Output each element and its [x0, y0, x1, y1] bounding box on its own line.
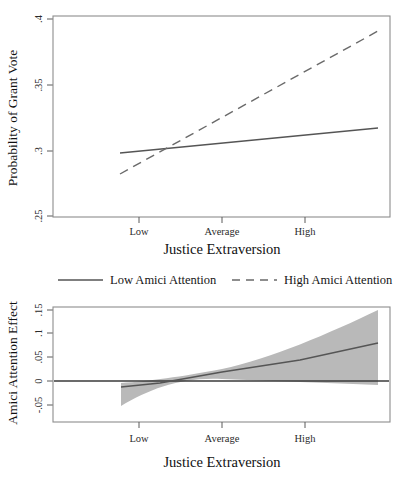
bottom-panel-y-axis-title: Amici Attention Effect: [5, 301, 20, 425]
y-tick-label: 0: [33, 378, 44, 383]
y-tick-label: .25: [33, 209, 44, 222]
top-panel-y-ticks: .4 .35 .3 .25: [33, 14, 53, 222]
bottom-panel-plot: Amici Attention Effect .15 .1 .05 0 -.05: [0, 295, 399, 486]
legend-entry-low-amici-attention: Low Amici Attention: [58, 273, 217, 287]
legend-label: Low Amici Attention: [110, 273, 217, 287]
x-tick-label: Low: [129, 226, 149, 237]
figure-container: Probability of Grant Vote .4 .35 .3 .25: [0, 0, 399, 486]
series-low-amici-attention: [120, 128, 378, 153]
top-panel-frame: [53, 16, 390, 217]
bottom-panel-x-ticks: Low Average High: [129, 422, 316, 444]
legend: Low Amici Attention High Amici Attention: [0, 258, 399, 300]
legend-entry-high-amici-attention: High Amici Attention: [232, 273, 393, 287]
bottom-panel-y-ticks: .15 .1 .05 0 -.05: [33, 303, 53, 413]
top-panel: Probability of Grant Vote .4 .35 .3 .25: [0, 0, 399, 258]
legend-plot: Low Amici Attention High Amici Attention: [0, 258, 399, 300]
top-panel-y-axis-title: Probability of Grant Vote: [5, 50, 20, 186]
x-tick-label: Average: [205, 226, 240, 237]
legend-label: High Amici Attention: [284, 273, 393, 287]
y-tick-label: .4: [33, 14, 44, 23]
y-tick-label: .15: [33, 303, 44, 316]
x-tick-label: Low: [129, 433, 149, 444]
bottom-panel-x-axis-title: Justice Extraversion: [163, 454, 281, 470]
top-panel-x-axis-title: Justice Extraversion: [163, 241, 281, 257]
x-tick-label: High: [295, 433, 317, 444]
y-tick-label: .35: [33, 78, 44, 91]
top-panel-plot: Probability of Grant Vote .4 .35 .3 .25: [0, 0, 399, 258]
bottom-panel: Amici Attention Effect .15 .1 .05 0 -.05: [0, 295, 399, 486]
series-high-amici-attention: [120, 31, 378, 174]
y-tick-label: .1: [33, 329, 44, 337]
top-panel-x-ticks: Low Average High: [129, 217, 316, 237]
x-tick-label: High: [295, 226, 317, 237]
x-tick-label: Average: [205, 433, 240, 444]
y-tick-label: -.05: [33, 397, 44, 414]
confidence-band: [121, 310, 378, 406]
y-tick-label: .3: [33, 147, 44, 155]
y-tick-label: .05: [33, 350, 44, 363]
